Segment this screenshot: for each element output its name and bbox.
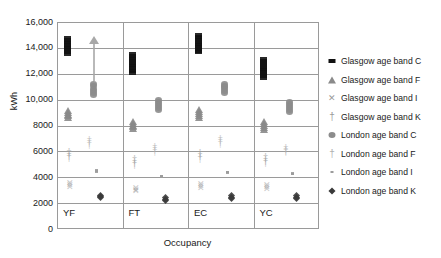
legend-label: London age band C xyxy=(341,130,417,140)
small-dash-icon xyxy=(326,167,338,177)
filled-square-icon xyxy=(326,56,338,66)
data-point: † xyxy=(66,153,72,163)
data-point xyxy=(260,126,268,133)
y-tick-label: 0 xyxy=(5,225,53,234)
legend-item[interactable]: †London age band F xyxy=(326,145,441,164)
data-point xyxy=(129,125,137,132)
data-point xyxy=(195,50,202,54)
legend-label: Glasgow age band C xyxy=(341,56,421,66)
data-point: † xyxy=(152,147,158,157)
y-tick-label: 12,000 xyxy=(5,69,53,78)
legend-label: Glasgow age band I xyxy=(341,93,417,103)
data-point: ✕ xyxy=(197,184,205,193)
x-tick-label-yc: YC xyxy=(260,207,273,218)
data-point xyxy=(221,90,228,96)
category-separator xyxy=(123,22,124,229)
data-point xyxy=(64,52,71,56)
filled-diamond-icon xyxy=(326,186,338,196)
legend-label: London age band K xyxy=(341,186,416,196)
chart-legend: Glasgow age band CGlasgow age band F✕Gla… xyxy=(326,52,441,200)
chart-container: kWh 0200040006000800010,00012,00014,0001… xyxy=(0,0,441,258)
triangle-icon xyxy=(326,75,338,85)
data-point xyxy=(291,173,294,175)
legend-label: London age band I xyxy=(341,167,413,177)
data-point: ✕ xyxy=(66,183,74,192)
data-point: † xyxy=(283,147,289,157)
category-separator xyxy=(254,22,255,229)
data-point: † xyxy=(197,154,203,164)
y-tick-label: 4000 xyxy=(5,173,53,182)
y-tick-label: 8000 xyxy=(5,121,53,130)
y-tick-label: 14,000 xyxy=(5,43,53,52)
legend-label: London age band F xyxy=(341,149,416,159)
legend-item[interactable]: London age band C xyxy=(326,126,441,145)
data-point: † xyxy=(86,140,92,150)
legend-item[interactable]: London age band K xyxy=(326,182,441,201)
x-tick-label-ft: FT xyxy=(129,207,141,218)
y-tick-label: 6000 xyxy=(5,147,53,156)
data-point xyxy=(260,76,267,80)
x-axis-title: Occupancy xyxy=(55,237,320,248)
x-tick-label-yf: YF xyxy=(63,207,75,218)
y-tick-label: 16,000 xyxy=(5,18,53,27)
data-point: † xyxy=(217,139,223,149)
legend-item[interactable]: Glasgow age band F xyxy=(326,71,441,90)
filled-circle-icon xyxy=(326,130,338,140)
legend-item[interactable]: London age band I xyxy=(326,163,441,182)
legend-label: Glasgow age band K xyxy=(341,112,421,122)
legend-item[interactable]: †Glasgow age band K xyxy=(326,108,441,127)
plot-area: YFFTECYC✕✕✕✕✕✕✕✕✕✕✕✕††††††††††††††††††††… xyxy=(57,22,319,229)
data-point xyxy=(286,109,293,115)
data-point xyxy=(160,176,163,178)
plus-light-icon: † xyxy=(326,149,338,159)
data-point xyxy=(97,194,104,201)
data-point xyxy=(95,171,98,173)
plus-icon: † xyxy=(326,112,338,122)
data-point: ✕ xyxy=(263,185,271,194)
data-point xyxy=(155,107,162,113)
data-point xyxy=(226,172,229,174)
legend-label: Glasgow age band F xyxy=(341,75,420,85)
data-point xyxy=(129,71,136,75)
y-tick-label: 2000 xyxy=(5,199,53,208)
data-point: † xyxy=(263,158,269,168)
data-point: † xyxy=(132,160,138,170)
cross-x-icon: ✕ xyxy=(326,93,338,103)
data-point xyxy=(64,114,72,121)
legend-item[interactable]: ✕Glasgow age band I xyxy=(326,89,441,108)
data-point: ✕ xyxy=(132,187,140,196)
y-tick-label: 10,000 xyxy=(5,95,53,104)
category-separator xyxy=(188,22,189,229)
data-point xyxy=(90,92,97,98)
up-arrow-annotation-icon xyxy=(88,35,100,81)
legend-item[interactable]: Glasgow age band C xyxy=(326,52,441,71)
y-axis-tick-labels: 0200040006000800010,00012,00014,00016,00… xyxy=(3,22,53,229)
x-tick-label-ec: EC xyxy=(194,207,207,218)
data-point xyxy=(195,114,203,121)
